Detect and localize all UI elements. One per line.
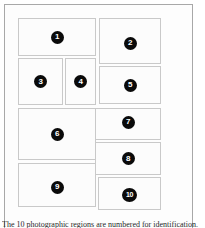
region-cell-9[interactable]: 9 bbox=[18, 163, 96, 207]
region-badge-5: 5 bbox=[124, 79, 137, 92]
region-cell-4[interactable]: 4 bbox=[65, 58, 96, 105]
figure-root: 1 2 3 4 5 6 7 8 9 10 The 10 photographic… bbox=[0, 0, 205, 228]
region-cell-7[interactable]: 7 bbox=[95, 108, 161, 140]
region-cell-1[interactable]: 1 bbox=[18, 18, 96, 56]
region-badge-7: 7 bbox=[122, 116, 135, 129]
region-badge-6: 6 bbox=[51, 128, 64, 141]
region-cell-8[interactable]: 8 bbox=[95, 142, 161, 175]
region-cell-10[interactable]: 10 bbox=[98, 177, 161, 210]
figure-caption: The 10 photographic regions are numbered… bbox=[2, 220, 202, 228]
region-badge-9: 9 bbox=[51, 181, 64, 194]
region-cell-5[interactable]: 5 bbox=[99, 66, 161, 104]
region-cell-2[interactable]: 2 bbox=[99, 18, 161, 64]
region-badge-10: 10 bbox=[122, 188, 137, 202]
region-badge-8: 8 bbox=[122, 152, 135, 165]
region-cell-3[interactable]: 3 bbox=[18, 58, 63, 105]
region-cell-6[interactable]: 6 bbox=[18, 108, 96, 160]
region-badge-3: 3 bbox=[34, 75, 47, 88]
region-badge-4: 4 bbox=[74, 75, 87, 88]
region-badge-2: 2 bbox=[124, 37, 137, 50]
region-badge-1: 1 bbox=[51, 31, 64, 44]
